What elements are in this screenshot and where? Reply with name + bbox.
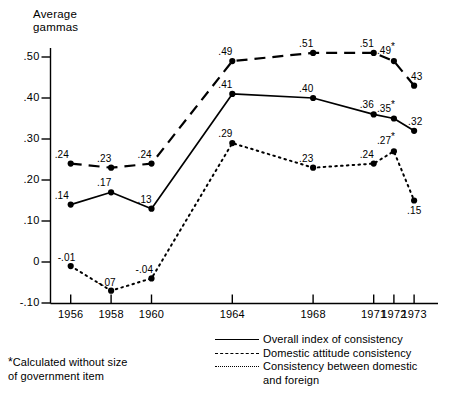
footnote: *Calculated without size of government i… (8, 355, 128, 383)
legend-label-1: Domestic attitude consistency (263, 347, 411, 361)
legend-label-0: Overall index of consistency (263, 333, 403, 347)
data-point (411, 128, 417, 134)
data-point (229, 140, 235, 146)
asterisk-marker: * (391, 41, 395, 52)
data-point (310, 50, 316, 56)
data-point (310, 165, 316, 171)
point-label: .36 (360, 99, 374, 110)
point-label: .51 (299, 38, 313, 49)
point-label: .24 (138, 149, 152, 160)
point-label: .17 (97, 177, 111, 188)
legend-label-2-cont: and foreign (263, 374, 417, 388)
point-label: .13 (138, 194, 152, 205)
point-label: -.04 (136, 264, 154, 275)
y-tick-3: .20 (24, 173, 40, 185)
legend-key-dashed-icon (215, 347, 263, 361)
data-point (148, 206, 154, 212)
data-point (108, 189, 114, 195)
asterisk-marker: * (391, 131, 395, 142)
data-point (310, 95, 316, 101)
chart-figure: Average gammas .50.40.30.20.100-.10 1956… (0, 0, 457, 401)
point-label: .49 (218, 46, 232, 57)
point-label: .40 (299, 83, 313, 94)
chart-legend: Overall index of consistencyDomestic att… (215, 333, 417, 387)
point-label: -.01 (58, 252, 76, 263)
y-tick-1: .40 (24, 91, 40, 103)
y-tick-6: -.10 (20, 296, 40, 308)
legend-label-2: Consistency between domestic (263, 360, 417, 374)
point-label: .27* (377, 135, 395, 146)
legend-item-1: Domestic attitude consistency (215, 347, 417, 361)
point-label: .15 (407, 205, 421, 216)
point-label: .24 (55, 149, 69, 160)
data-point (391, 58, 397, 64)
x-tick-1956: 1956 (49, 308, 93, 320)
point-label: .43 (408, 71, 422, 82)
point-label: .29 (218, 128, 232, 139)
point-label: .23 (299, 153, 313, 164)
series-line-2 (71, 143, 414, 291)
data-point (391, 148, 397, 154)
point-label: .35* (377, 103, 395, 114)
data-point (411, 197, 417, 203)
legend-key-solid-icon (215, 333, 263, 347)
point-label: .41 (218, 79, 232, 90)
x-tick-1968: 1968 (291, 308, 335, 320)
data-point (148, 275, 154, 281)
point-label: .51 (360, 38, 374, 49)
data-point (108, 288, 114, 294)
data-point (391, 115, 397, 121)
y-tick-2: .30 (24, 132, 40, 144)
footnote-line2: of government item (8, 370, 104, 382)
data-point (148, 161, 154, 167)
data-point (371, 161, 377, 167)
data-point (229, 58, 235, 64)
data-point (68, 202, 74, 208)
legend-key-dotted-icon (215, 360, 263, 374)
data-point (108, 165, 114, 171)
data-point (371, 50, 377, 56)
point-label: .49* (377, 45, 395, 56)
y-tick-0: .50 (24, 50, 40, 62)
x-tick-1960: 1960 (130, 308, 174, 320)
point-label: .14 (55, 190, 69, 201)
data-point (371, 111, 377, 117)
x-tick-1958: 1958 (89, 308, 133, 320)
x-tick-1964: 1964 (210, 308, 254, 320)
point-label: .32 (408, 116, 422, 127)
legend-item-0: Overall index of consistency (215, 333, 417, 347)
point-label: .23 (97, 153, 111, 164)
point-label: .24 (360, 149, 374, 160)
legend-item-2: Consistency between domestic (215, 360, 417, 374)
y-tick-4: .10 (24, 214, 40, 226)
data-point (411, 83, 417, 89)
footnote-line1: Calculated without size (13, 356, 128, 368)
y-tick-5: 0 (33, 255, 39, 267)
asterisk-marker: * (391, 98, 395, 109)
data-point (68, 161, 74, 167)
point-label: -.07 (98, 277, 116, 288)
x-tick-1973: 1973 (392, 308, 436, 320)
data-point (229, 91, 235, 97)
data-point (68, 263, 74, 269)
